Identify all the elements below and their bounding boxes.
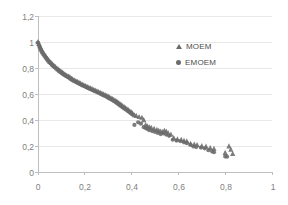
triangle-marker-icon bbox=[176, 44, 182, 49]
y-tick-label-0-2: 0,2 bbox=[10, 143, 34, 152]
plot-canvas bbox=[0, 0, 288, 205]
legend-label-moem: MOEM bbox=[186, 42, 212, 51]
legend-label-emoem: EMOEM bbox=[185, 58, 216, 67]
y-tick-label-0: 0 bbox=[10, 169, 34, 178]
y-tick-label-0-8: 0,8 bbox=[10, 65, 34, 74]
tick-marks-group bbox=[35, 16, 272, 175]
y-tick-label-1-2: 1,2 bbox=[10, 13, 34, 22]
y-tick-label-1: 1 bbox=[10, 39, 34, 48]
x-tick-label-1: 1 bbox=[263, 183, 283, 192]
x-tick-label-0-2: 0,2 bbox=[75, 183, 95, 192]
x-tick-label-0: 0 bbox=[28, 183, 48, 192]
scatter-chart: 1,2 1 0,8 0,6 0,4 0,2 0 0 0,2 0,4 0,6 0,… bbox=[0, 0, 288, 205]
legend-entry-emoem[interactable]: EMOEM bbox=[176, 58, 216, 67]
x-tick-label-0-6: 0,6 bbox=[169, 183, 189, 192]
y-tick-label-0-6: 0,6 bbox=[10, 91, 34, 100]
y-tick-label-0-4: 0,4 bbox=[10, 117, 34, 126]
circle-marker-icon bbox=[176, 60, 181, 65]
legend-entry-moem[interactable]: MOEM bbox=[176, 42, 212, 51]
x-tick-label-0-4: 0,4 bbox=[122, 183, 142, 192]
series-moem-points bbox=[35, 39, 235, 156]
x-tick-label-0-8: 0,8 bbox=[216, 183, 236, 192]
